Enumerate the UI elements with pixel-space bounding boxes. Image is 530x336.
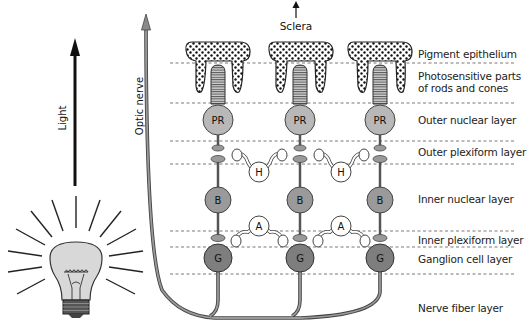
retina-diagram: PR PR PR B B B G G G H H A A <box>0 0 530 336</box>
layer-label-outer-nuclear: Outer nuclear layer <box>418 114 516 126</box>
sclera-label: Sclera <box>280 20 313 32</box>
cell-label-b: B <box>297 195 304 206</box>
sclera-arrow <box>293 1 300 18</box>
cell-label-pr: PR <box>294 115 307 126</box>
cell-label-b: B <box>377 195 384 206</box>
cell-label-a: A <box>338 221 345 232</box>
layer-label-pigment: Pigment epithelium <box>418 48 517 60</box>
cell-label-g: G <box>214 253 222 264</box>
cell-label-b: B <box>215 195 222 206</box>
cell-label-pr: PR <box>212 115 225 126</box>
layer-label-ganglion: Ganglion cell layer <box>418 253 512 265</box>
cell-label-pr: PR <box>374 115 387 126</box>
cell-label-h: H <box>337 167 345 178</box>
layer-label-outer-plexiform: Outer plexiform layer <box>418 146 526 158</box>
layer-label-inner-plexiform: Inner plexiform layer <box>418 234 523 246</box>
layer-label-photosensitive: Photosensitive parts of rods and cones <box>418 70 530 94</box>
cell-label-g: G <box>296 253 304 264</box>
layer-label-inner-nuclear: Inner nuclear layer <box>418 193 514 205</box>
cell-label-a: A <box>256 221 263 232</box>
optic-nerve-label: Optic nerve <box>134 77 145 135</box>
cell-label-h: H <box>255 167 263 178</box>
light-label: Light <box>57 105 68 130</box>
cell-label-g: G <box>376 253 384 264</box>
light-arrow <box>70 38 80 186</box>
light-bulb-icon <box>50 242 102 318</box>
layer-label-nerve-fiber: Nerve fiber layer <box>418 302 503 314</box>
